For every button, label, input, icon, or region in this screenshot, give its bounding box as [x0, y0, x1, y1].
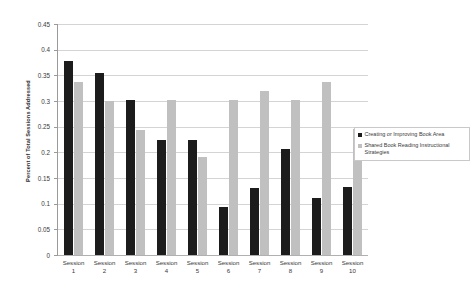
legend-label-series-a: Creating or Improving Book Area [365, 131, 445, 138]
bar-series-a [219, 207, 228, 255]
y-axis-tick-mark [54, 229, 57, 230]
legend-item-series-a: Creating or Improving Book Area [358, 131, 467, 138]
y-axis-tick-label: 0.15 [16, 175, 50, 182]
x-axis-tick-label: Session8 [275, 259, 306, 275]
x-axis-tick-label: Session5 [182, 259, 213, 275]
y-axis-tick-label: 0.25 [16, 123, 50, 130]
bar-series-a [64, 61, 73, 255]
bar-series-a [95, 73, 104, 255]
y-axis-tick-label: 0.2 [16, 149, 50, 156]
x-axis-tick-label: Session2 [89, 259, 120, 275]
legend-label-series-b: Shared Book Reading Instructional Strate… [365, 142, 468, 156]
y-axis-tick-mark [54, 178, 57, 179]
x-axis-tick-label: Session4 [151, 259, 182, 275]
y-axis-tick-mark [54, 24, 57, 25]
bar-series-b [291, 100, 300, 255]
plot-area [58, 24, 368, 255]
bar-series-a [188, 140, 197, 256]
bar-series-b [198, 157, 207, 255]
y-axis-tick-mark [54, 127, 57, 128]
y-axis-tick-mark [54, 75, 57, 76]
y-axis-tick-label: 0.35 [16, 72, 50, 79]
gridline [58, 50, 368, 51]
x-axis-tick-label: Session6 [213, 259, 244, 275]
y-axis-tick-label: 0.05 [16, 226, 50, 233]
x-axis-tick-label: Session1 [58, 259, 89, 275]
x-axis-tick-label: Session10 [337, 259, 368, 275]
y-axis-tick-label: 0.3 [16, 98, 50, 105]
bar-series-a [250, 188, 259, 255]
y-axis-tick-mark [54, 204, 57, 205]
legend-swatch-icon-series-b [358, 144, 362, 148]
gridline [58, 255, 368, 256]
bar-series-a [126, 100, 135, 255]
y-axis-tick-mark [54, 101, 57, 102]
x-axis-tick-label: Session7 [244, 259, 275, 275]
bar-series-b [322, 82, 331, 255]
bar-series-b [229, 100, 238, 255]
bar-series-b [105, 101, 114, 256]
legend-item-series-b: Shared Book Reading Instructional Strate… [358, 142, 467, 156]
bar-chart: Percent of Total Sessions Addressed 0.45… [0, 0, 475, 296]
y-axis-tick-label: 0.4 [16, 46, 50, 53]
y-axis-tick-mark [54, 50, 57, 51]
x-axis-tick-label: Session3 [120, 259, 151, 275]
bar-series-b [167, 100, 176, 255]
y-axis-tick-mark [54, 255, 57, 256]
y-axis-tick-label: 0.45 [16, 21, 50, 28]
bar-series-a [157, 140, 166, 256]
legend: Creating or Improving Book Area Shared B… [354, 127, 470, 161]
gridline [58, 75, 368, 76]
bar-series-a [343, 187, 352, 255]
y-axis-tick-label: 0 [16, 252, 50, 259]
legend-swatch-icon-series-a [358, 133, 362, 137]
bar-series-a [281, 149, 290, 255]
y-axis-tick-label: 0.1 [16, 200, 50, 207]
gridline [58, 24, 368, 25]
bar-series-b [136, 130, 145, 255]
bar-series-b [260, 91, 269, 255]
bar-series-a [312, 198, 321, 255]
x-axis-tick-label: Session9 [306, 259, 337, 275]
bar-series-b [74, 82, 83, 255]
y-axis-tick-mark [54, 152, 57, 153]
